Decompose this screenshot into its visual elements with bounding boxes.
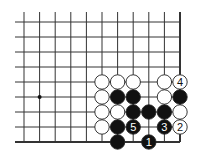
black-stone — [126, 90, 140, 104]
white-stone — [95, 90, 109, 104]
black-stone — [126, 105, 140, 119]
move-number: 1 — [146, 136, 152, 148]
white-stone — [157, 90, 171, 104]
star-point — [38, 95, 42, 99]
white-stone — [126, 75, 140, 89]
black-stone — [173, 90, 187, 104]
white-stone — [157, 75, 171, 89]
black-stone — [110, 120, 124, 134]
black-stone — [110, 90, 124, 104]
white-stone-move-4: 4 — [173, 75, 187, 89]
black-stone-move-5: 5 — [126, 120, 140, 134]
black-stone — [157, 105, 171, 119]
white-stone — [95, 105, 109, 119]
black-stone — [110, 135, 124, 149]
go-board-diagram: 45321 — [0, 0, 198, 157]
star-points — [38, 95, 42, 99]
white-stone — [95, 75, 109, 89]
black-stone-move-1: 1 — [142, 135, 156, 149]
white-stone — [110, 105, 124, 119]
black-stone-move-3: 3 — [157, 120, 171, 134]
white-stone — [95, 120, 109, 134]
black-stone — [142, 105, 156, 119]
white-stone — [110, 75, 124, 89]
white-stone — [173, 105, 187, 119]
move-number: 5 — [130, 121, 136, 133]
move-number: 2 — [177, 121, 183, 133]
move-number: 3 — [161, 121, 167, 133]
white-stone-move-2: 2 — [173, 120, 187, 134]
move-number: 4 — [177, 76, 183, 88]
